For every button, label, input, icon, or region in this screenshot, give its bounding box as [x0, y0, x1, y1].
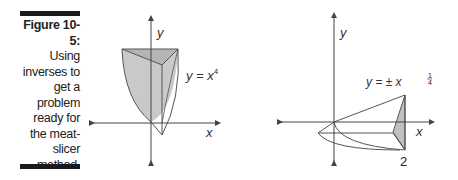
left-y-label: y	[156, 25, 165, 40]
right-x-tick-2: 2	[400, 154, 407, 169]
left-x-label: x	[205, 125, 213, 140]
figure-graphics: y x y = x4 y x 2 y = ± x 1 4	[0, 0, 458, 180]
right-equation-exp-num: 1	[428, 72, 432, 79]
right-equation-exp-den: 4	[428, 79, 432, 86]
left-graph: y x y = x4	[92, 18, 219, 163]
right-graph: y x 2 y = ± x 1 4	[280, 15, 432, 169]
right-equation: y = ± x	[365, 75, 403, 89]
left-equation: y = x4	[185, 67, 219, 83]
right-x-label: x	[415, 124, 423, 139]
right-y-label: y	[339, 25, 348, 40]
